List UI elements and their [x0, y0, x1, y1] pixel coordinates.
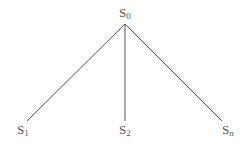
- node-s0-sub: 0: [126, 11, 131, 21]
- node-s1: S1: [17, 123, 29, 138]
- edge-s0-sn: [125, 24, 222, 121]
- node-sn: Sn: [222, 123, 234, 138]
- node-s0: S0: [119, 6, 131, 21]
- node-s2-sub: 2: [126, 128, 131, 138]
- edge-s0-s1: [27, 24, 125, 121]
- node-s1-sub: 1: [24, 128, 29, 138]
- node-s2: S2: [119, 123, 131, 138]
- node-sn-sub: n: [229, 128, 234, 138]
